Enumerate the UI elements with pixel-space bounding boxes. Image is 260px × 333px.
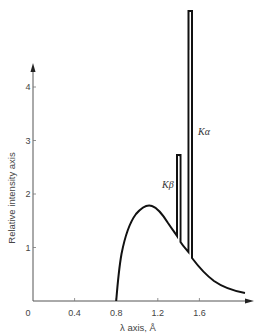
k-beta-label: Kβ	[161, 179, 174, 190]
y-tick-label: 2	[25, 189, 30, 199]
x-tick-label: 1.2	[152, 308, 165, 318]
x-tick-label: 0.8	[110, 308, 123, 318]
y-axis-title: Relative intensity axis	[6, 152, 17, 244]
y-tick-label: 3	[25, 136, 30, 146]
y-tick-label: 1	[25, 243, 30, 253]
y-axis-arrow-icon	[31, 63, 36, 72]
origin-label: 0	[25, 308, 30, 318]
xray-spectrum-chart: 0 0.4 0.8 1.2 1.6 1 2 3 4 λ axis, Å Rela…	[0, 0, 260, 333]
y-tick-label: 4	[25, 82, 30, 92]
k-alpha-label: Kα	[197, 126, 211, 137]
x-axis-arrow-icon	[245, 299, 254, 304]
spectrum-curve	[116, 11, 245, 301]
x-tick-label: 1.6	[193, 308, 206, 318]
x-tick-label: 0.4	[68, 308, 81, 318]
x-axis-title: λ axis, Å	[120, 322, 157, 333]
